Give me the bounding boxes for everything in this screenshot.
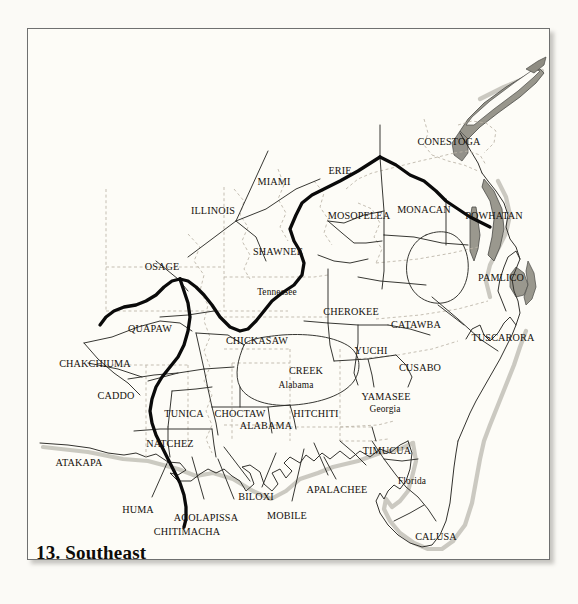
tribe-label-atakapa: ATAKAPA [56, 458, 103, 468]
tribe-label-yamasee: YAMASEE [361, 392, 410, 402]
tribe-label-chakchiuma: CHAKCHIUMA [59, 359, 131, 369]
tribe-label-tuscarora: TUSCARORA [471, 333, 534, 343]
tribe-label-yuchi: YUCHI [354, 346, 387, 356]
tribe-label-tunica: TUNICA [164, 409, 203, 419]
tribe-label-monacan: MONACAN [397, 205, 451, 215]
tribe-label-erie: ERIE [328, 166, 351, 176]
state-label-tennessee: Tennessee [257, 288, 297, 297]
map-frame: CONESTOGA ERIE MIAMI ILLINOIS MOSOPELEA … [27, 28, 550, 560]
tribe-label-miami: MIAMI [257, 177, 290, 187]
tribe-label-catawba: CATAWBA [391, 320, 441, 330]
state-label-alabama: Alabama [279, 381, 314, 390]
tribe-label-shawnee: SHAWNEE [253, 247, 303, 257]
long-island [460, 69, 544, 141]
tribe-label-choctaw: CHOCTAW [215, 409, 266, 419]
western-boundary [100, 279, 180, 325]
tribe-label-calusa: CALUSA [415, 532, 457, 542]
tribe-label-timucua: TIMUCUA [363, 446, 412, 456]
tribe-label-pamlico: PAMLICO [478, 273, 524, 283]
tribe-label-creek: CREEK [289, 366, 323, 376]
tribe-label-powhatan: POWHATAN [465, 211, 523, 221]
figure-title: 13. Southeast [36, 542, 146, 564]
tribe-label-acolapissa: ACOLAPISSA [174, 513, 238, 523]
tribe-label-osage: OSAGE [145, 262, 180, 272]
map-figure: CONESTOGA ERIE MIAMI ILLINOIS MOSOPELEA … [0, 0, 578, 604]
long-island-sound [466, 69, 540, 125]
tribe-label-chickasaw: CHICKASAW [226, 336, 288, 346]
state-label-florida: Florida [398, 477, 426, 486]
tribe-label-hitchiti: HITCHITI [293, 409, 338, 419]
tribe-label-cusabo: CUSABO [399, 363, 441, 373]
tribe-label-chitimacha: CHITIMACHA [154, 527, 221, 537]
tribe-label-natchez: NATCHEZ [146, 439, 193, 449]
tribe-label-illinois: ILLINOIS [191, 206, 235, 216]
tribe-label-cherokee: CHEROKEE [323, 307, 379, 317]
tribe-label-huma: HUMA [122, 505, 154, 515]
tribe-label-caddo: CADDO [98, 391, 135, 401]
tribe-label-biloxi: BILOXI [238, 492, 273, 502]
tribe-label-mosopelea: MOSOPELEA [328, 211, 390, 221]
tribe-label-apalachee: APALACHEE [307, 485, 368, 495]
tribe-label-mobile: MOBILE [267, 511, 307, 521]
tribe-label-alabama: ALABAMA [240, 421, 293, 431]
state-label-georgia: Georgia [369, 405, 400, 414]
tribe-label-quapaw: QUAPAW [128, 324, 172, 334]
tribe-label-conestoga: CONESTOGA [418, 137, 481, 147]
